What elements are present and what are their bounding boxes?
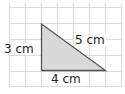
height-label: 3 cm (3, 43, 35, 55)
hypotenuse-label: 5 cm (74, 34, 106, 46)
base-label: 4 cm (50, 73, 82, 85)
